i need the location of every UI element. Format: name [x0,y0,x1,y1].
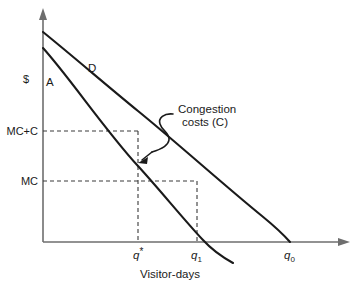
x-axis-arrow-icon [338,238,350,246]
x-tick-q0: q0 [284,249,295,264]
x-tick-q1: q1 [191,249,202,264]
curve-label-a: A [46,76,54,88]
y-tick-mc: MC [21,175,38,187]
annotation-congestion-line2: costs (C) [182,116,228,128]
y-axis-arrow-icon [39,8,47,20]
y-axis [39,8,47,242]
annotation-arrow-head-icon [138,157,148,164]
x-tick-q-star: q* [133,246,143,261]
annotation-arrow [138,114,173,164]
y-tick-mc-plus-c: MC+C [7,125,39,137]
x-tick-q1-sub: 1 [197,255,202,264]
guide-lines [43,131,197,242]
x-tick-q0-sub: 0 [290,255,295,264]
annotation-arrow-squiggle [152,114,173,152]
curve-d [43,32,290,242]
figure-container: A D $ MC+C MC q* q1 q0 Visitor-days Cong… [0,0,357,285]
y-axis-title: $ [23,73,29,85]
x-tick-q-star-mark: * [139,246,143,257]
x-axis-title: Visitor-days [140,268,200,280]
congestion-costs-chart: A D $ MC+C MC q* q1 q0 Visitor-days Cong… [0,0,357,285]
annotation-congestion-line1: Congestion [178,103,236,115]
curve-label-d: D [88,62,96,74]
